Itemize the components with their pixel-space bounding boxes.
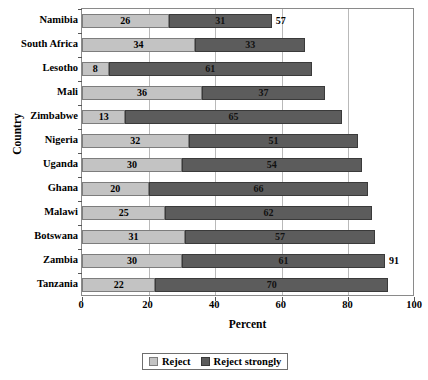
y-axis-category-label: Namibia: [10, 14, 78, 25]
x-axis-tick-labels: 020406080100: [81, 299, 414, 315]
bar-row: 861: [82, 57, 413, 81]
x-axis-tick-label: 40: [194, 299, 234, 310]
dark-gray-swatch-icon: [201, 357, 210, 366]
y-axis-tick: [78, 201, 82, 202]
y-axis-category-label: Zimbabwe: [10, 110, 78, 121]
legend-label-reject: Reject: [162, 356, 191, 367]
y-axis-tick: [78, 129, 82, 130]
bar-total-label: 57: [276, 13, 286, 29]
y-axis-category-label: Botswana: [10, 230, 78, 241]
bar-value-label-reject-strongly: 31: [169, 13, 272, 29]
y-axis-tick: [78, 81, 82, 82]
y-axis-category-label: Nigeria: [10, 134, 78, 145]
y-axis-tick: [78, 177, 82, 178]
y-axis-tick: [78, 105, 82, 106]
bar-row: 2066: [82, 177, 413, 201]
x-axis-tick-label: 60: [261, 299, 301, 310]
bar-value-label-reject-strongly: 51: [189, 133, 359, 149]
x-axis-tick-label: 0: [61, 299, 101, 310]
x-axis-tick-label: 20: [128, 299, 168, 310]
bar-value-label-reject-strongly: 33: [195, 37, 305, 53]
bar-value-label-reject: 34: [82, 37, 195, 53]
bar-value-label-reject: 22: [82, 277, 155, 293]
legend-item-reject: Reject: [149, 356, 191, 367]
y-axis-tick: [78, 249, 82, 250]
y-axis-tick: [78, 153, 82, 154]
y-axis-category-label: Uganda: [10, 158, 78, 169]
light-gray-swatch-icon: [149, 357, 158, 366]
y-axis-category-label: Lesotho: [10, 62, 78, 73]
bar-total-label: 91: [389, 253, 399, 269]
y-axis-category-label: South Africa: [10, 38, 78, 49]
bar-row: 1365: [82, 105, 413, 129]
bar-value-label-reject-strongly: 37: [202, 85, 325, 101]
y-axis-tick: [78, 33, 82, 34]
legend-label-reject-strongly: Reject strongly: [214, 356, 282, 367]
y-axis-category-label: Malawi: [10, 206, 78, 217]
bar-value-label-reject-strongly: 57: [185, 229, 375, 245]
bar-value-label-reject-strongly: 65: [125, 109, 341, 125]
bar-value-label-reject-strongly: 66: [149, 181, 369, 197]
y-axis-tick: [78, 57, 82, 58]
bar-value-label-reject-strongly: 61: [182, 253, 385, 269]
plot-area: 2631573433861363713653251305420662562315…: [81, 8, 414, 296]
bar-value-label-reject: 25: [82, 205, 165, 221]
x-axis-tick-label: 80: [327, 299, 367, 310]
y-axis-tick: [78, 9, 82, 10]
y-axis-category-label: Tanzania: [10, 278, 78, 289]
bar-value-label-reject-strongly: 54: [182, 157, 362, 173]
bar-value-label-reject-strongly: 62: [165, 205, 371, 221]
bar-value-label-reject: 30: [82, 253, 182, 269]
y-axis-category-label: Ghana: [10, 182, 78, 193]
y-axis-category-label: Mali: [10, 86, 78, 97]
bar-row: 3251: [82, 129, 413, 153]
bar-value-label-reject: 20: [82, 181, 149, 197]
y-axis-tick: [78, 273, 82, 274]
chart-legend: Reject Reject strongly: [142, 353, 288, 370]
bar-row: 3157: [82, 225, 413, 249]
bar-row: 2562: [82, 201, 413, 225]
bar-row: 2270: [82, 273, 413, 297]
bar-value-label-reject-strongly: 61: [109, 61, 312, 77]
bar-value-label-reject: 13: [82, 109, 125, 125]
y-axis-tick: [78, 225, 82, 226]
stacked-bar-chart: Country NamibiaSouth AfricaLesothoMaliZi…: [0, 0, 428, 380]
legend-item-reject-strongly: Reject strongly: [201, 356, 282, 367]
bar-row: 3637: [82, 81, 413, 105]
bar-row: 306191: [82, 249, 413, 273]
bar-row: 3054: [82, 153, 413, 177]
bar-value-label-reject: 36: [82, 85, 202, 101]
y-axis-category-label: Zambia: [10, 254, 78, 265]
bar-value-label-reject: 30: [82, 157, 182, 173]
bar-row: 263157: [82, 9, 413, 33]
bar-value-label-reject: 8: [82, 61, 109, 77]
x-axis-title: Percent: [81, 318, 414, 330]
bar-row: 3433: [82, 33, 413, 57]
bar-value-label-reject: 32: [82, 133, 189, 149]
bar-value-label-reject: 26: [82, 13, 169, 29]
bar-value-label-reject-strongly: 70: [155, 277, 388, 293]
bar-value-label-reject: 31: [82, 229, 185, 245]
x-axis-tick-label: 100: [394, 299, 428, 310]
y-axis-category-labels: NamibiaSouth AfricaLesothoMaliZimbabweNi…: [10, 8, 78, 296]
